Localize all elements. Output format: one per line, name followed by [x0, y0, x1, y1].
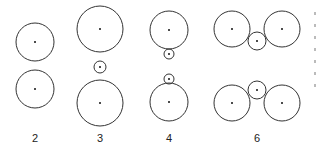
- circle-arrangement-diagram: 2346: [0, 0, 319, 151]
- circle-group-2: 2: [16, 23, 54, 144]
- center-dot: [231, 102, 233, 104]
- center-dot: [99, 102, 101, 104]
- center-dot: [168, 29, 170, 31]
- group-label: 6: [254, 132, 260, 144]
- circle-group-6: 6: [214, 11, 300, 144]
- center-dot: [256, 89, 258, 91]
- center-dot: [99, 28, 101, 30]
- circle-group-3: 3: [77, 6, 123, 144]
- center-dot: [281, 28, 283, 30]
- center-dot: [231, 28, 233, 30]
- group-label: 2: [32, 132, 38, 144]
- center-dot: [99, 66, 101, 68]
- center-dot: [168, 78, 170, 80]
- center-dot: [281, 102, 283, 104]
- cropped-margin-text: [314, 12, 317, 92]
- circle-group-4: 4: [150, 11, 188, 144]
- group-label: 3: [97, 132, 103, 144]
- center-dot: [168, 53, 170, 55]
- center-dot: [168, 101, 170, 103]
- center-dot: [34, 41, 36, 43]
- group-label: 4: [166, 132, 172, 144]
- center-dot: [34, 88, 36, 90]
- center-dot: [256, 40, 258, 42]
